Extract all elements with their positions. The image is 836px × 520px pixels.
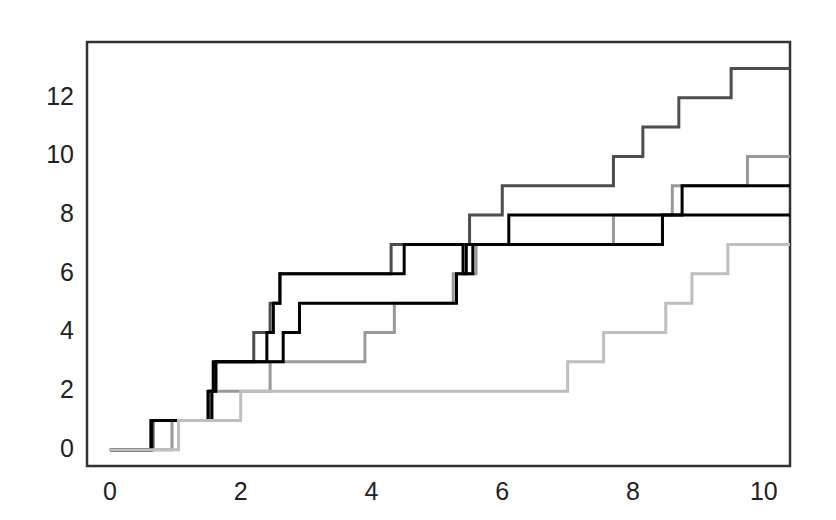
y-tick-label: 6	[60, 258, 74, 287]
y-tick-label: 2	[60, 375, 74, 404]
y-tick-label: 12	[46, 82, 74, 111]
x-tick-label: 10	[724, 477, 804, 506]
y-tick-label: 0	[60, 434, 74, 463]
x-tick-label: 8	[593, 477, 673, 506]
x-tick-label: 4	[331, 477, 411, 506]
step-chart-svg	[0, 0, 836, 520]
plot-frame-rect	[87, 42, 790, 466]
y-tick-label: 10	[46, 140, 74, 169]
chart-container: 024681012 0246810	[0, 0, 836, 520]
y-tick-label: 4	[60, 316, 74, 345]
x-tick-label: 0	[70, 477, 150, 506]
plot-frame	[87, 42, 790, 466]
x-tick-label: 6	[462, 477, 542, 506]
y-tick-label: 8	[60, 199, 74, 228]
x-tick-label: 2	[201, 477, 281, 506]
